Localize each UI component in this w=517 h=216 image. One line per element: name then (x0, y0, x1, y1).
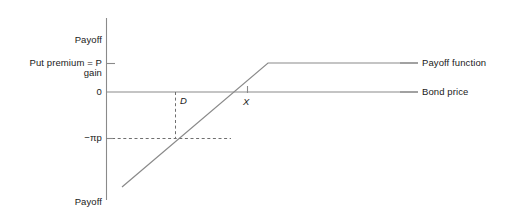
tick-label-zero: 0 (60, 86, 102, 97)
tick-label-put-premium: Put premium = P (8, 57, 102, 68)
y-axis-loss-title: Payoff loss (40, 174, 102, 216)
x-tick-label-d: D (180, 95, 187, 106)
payoff-diagram-figure: Payoff gain Put premium = P 0 −πp Payoff… (0, 0, 517, 216)
x-tick-label-strike: X (243, 96, 249, 107)
legend-label-bond-price: Bond price (422, 86, 468, 97)
y-axis-gain-title-line1: Payoff (40, 34, 102, 45)
tick-label-neg-pi-p: −πp (50, 132, 102, 143)
y-axis-gain-title-line2: gain (40, 67, 102, 78)
payoff-function-line (122, 63, 418, 187)
y-axis-loss-title-line1: Payoff (40, 196, 102, 207)
legend-label-payoff-function: Payoff function (422, 57, 486, 68)
